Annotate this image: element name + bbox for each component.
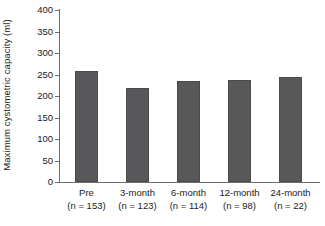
y-tick-label: 400 <box>37 4 53 15</box>
y-tick-label: 0 <box>48 176 53 187</box>
y-tick-mark <box>55 53 59 54</box>
y-tick-mark <box>55 118 59 119</box>
bar <box>279 77 302 182</box>
bar-chart-figure: Maximum cystometric capacity (ml) 050100… <box>0 0 325 226</box>
bar <box>126 88 149 182</box>
y-tick-mark <box>55 182 59 183</box>
bar <box>228 80 251 182</box>
y-tick-mark <box>55 75 59 76</box>
y-tick-label: 350 <box>37 26 53 37</box>
y-tick-label: 50 <box>42 155 53 166</box>
x-axis-line <box>59 182 320 183</box>
y-tick-label: 250 <box>37 69 53 80</box>
plot-area: 050100150200250300350400 <box>59 10 320 182</box>
y-tick-label: 300 <box>37 47 53 58</box>
bar <box>177 81 200 182</box>
y-tick-label: 150 <box>37 112 53 123</box>
y-tick-mark <box>55 10 59 11</box>
x-axis-sample-size: (n = 22) <box>259 199 323 212</box>
y-tick-label: 100 <box>37 133 53 144</box>
bar <box>75 71 98 182</box>
y-tick-mark <box>55 139 59 140</box>
y-tick-mark <box>55 161 59 162</box>
y-tick-mark <box>55 96 59 97</box>
x-axis-category: 24-month <box>259 186 323 199</box>
y-tick-mark <box>55 32 59 33</box>
y-tick-label: 200 <box>37 90 53 101</box>
y-axis-title: Maximum cystometric capacity (ml) <box>0 0 14 190</box>
x-axis-label: 24-month(n = 22) <box>259 186 323 212</box>
